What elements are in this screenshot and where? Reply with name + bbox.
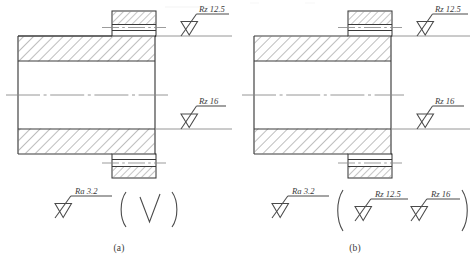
figure-a-bottom-boss: [102, 154, 166, 178]
bracket-label-b-1: Rz 12.5: [374, 189, 401, 199]
figure-caption-a: (a): [96, 243, 142, 253]
figure-b-bottom-boss: [338, 154, 402, 178]
figure-a: Rz 12.5 Rz 16 Ra 3.2: [6, 4, 232, 227]
general-note-bracket-item-b-2: Rz 16: [411, 189, 460, 221]
figure-a-general-note[interactable]: Ra 3.2: [55, 186, 177, 227]
drawing-canvas: Rz 12.5 Rz 16 Ra 3.2: [0, 0, 476, 266]
figure-b-body: [242, 36, 404, 154]
bracket-label-b-2: Rz 16: [430, 189, 451, 199]
drawing-sheet: Rz 12.5 Rz 16 Ra 3.2: [0, 0, 476, 266]
callout-label-b-bottom: Rz 16: [434, 96, 455, 106]
scan-artifact: [155, 0, 325, 10]
figure-a-body: [6, 36, 168, 154]
callout-label-b-top: Rz 12.5: [434, 4, 461, 14]
figure-b-callout-rz125[interactable]: Rz 12.5: [392, 4, 470, 36]
general-note-bracket-item-b-1: Rz 12.5: [355, 189, 408, 221]
general-note-primary-symbol-a: [55, 196, 112, 218]
figure-b-general-note[interactable]: Ra 3.2 Rz 12.5 Rz 16: [272, 186, 467, 231]
figure-a-top-boss: [102, 11, 166, 36]
figure-caption-b: (b): [332, 243, 378, 253]
figure-b-top-boss: [338, 11, 402, 36]
callout-label-a-bottom: Rz 16: [198, 96, 219, 106]
general-note-primary-symbol-b: [272, 196, 329, 218]
figure-b-callout-rz16[interactable]: Rz 16: [391, 96, 470, 129]
figure-b: Rz 12.5 Rz 16 Ra 3.2: [242, 4, 470, 231]
general-note-bracket-symbol-a: [140, 194, 160, 222]
general-note-label-a: Ra 3.2: [74, 186, 98, 196]
figure-a-callout-rz16[interactable]: Rz 16: [155, 96, 232, 129]
general-note-label-b: Ra 3.2: [291, 186, 315, 196]
